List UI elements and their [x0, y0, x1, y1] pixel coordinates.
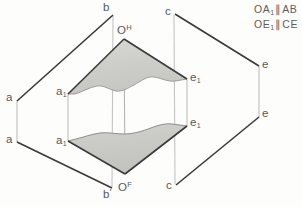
- label-a1-upper: a1: [56, 86, 67, 98]
- label-c-bottom: c: [166, 180, 172, 192]
- note-oa1-ab: OA1∥AB: [254, 3, 298, 18]
- label-e-upper: e: [262, 59, 269, 71]
- label-e1-upper: e1: [190, 72, 201, 84]
- label-o-f: OF: [118, 181, 132, 194]
- label-b-top: b: [103, 2, 110, 14]
- label-a-upper: a: [6, 92, 13, 104]
- label-b-prime: b': [103, 188, 112, 201]
- geometry-figure: b c OH a a1 e1 e a a1 e1 e OF b' c OA1∥A…: [0, 0, 302, 207]
- connector-c-vertical: [174, 15, 175, 184]
- edge-c-to-e: [175, 14, 259, 66]
- edge-cbottom-to-e: [176, 117, 259, 185]
- label-o-h: OH: [117, 24, 132, 37]
- label-e1-lower: e1: [190, 117, 201, 129]
- label-a-lower: a: [6, 134, 13, 146]
- parallelism-notes: OA1∥AB OE1∥CE: [254, 3, 298, 33]
- label-a1-lower: a1: [56, 135, 67, 147]
- label-c-top: c: [165, 6, 171, 18]
- label-e-lower: e: [262, 108, 269, 120]
- note-oe1-ce: OE1∥CE: [254, 18, 298, 33]
- upper-shaded-face: [68, 39, 187, 94]
- lower-shaded-face: [68, 124, 187, 174]
